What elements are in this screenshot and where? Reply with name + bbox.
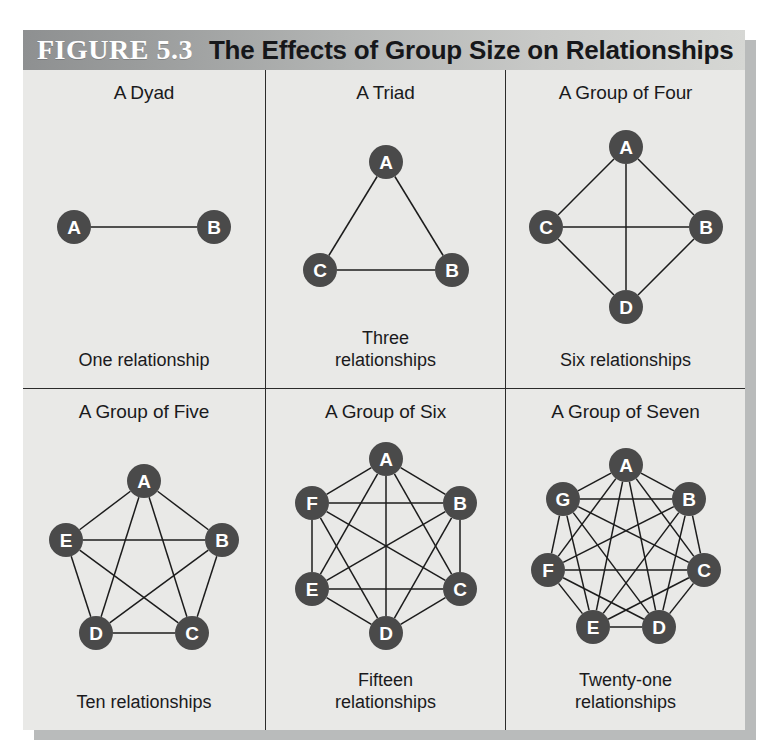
group-member-node: E (576, 610, 610, 644)
panel-title: A Group of Six (325, 401, 446, 423)
sociogram: ABCDEF (291, 438, 481, 654)
panel-group-of-seven: A Group of Seven ABCDEFG Twenty-one rela… (505, 388, 745, 730)
figure-number-label: FIGURE 5.3 (37, 34, 193, 66)
group-member-node: B (435, 253, 469, 287)
node-label: B (445, 260, 459, 281)
group-member-node: B (197, 210, 231, 244)
group-member-node: C (175, 616, 209, 650)
relationship-line (596, 482, 622, 611)
relationship-line (110, 551, 209, 624)
group-member-node: G (546, 482, 580, 516)
group-member-node: F (531, 553, 565, 587)
figure-root: FIGURE 5.3 The Effects of Group Size on … (0, 0, 772, 756)
relationship-line (669, 584, 693, 614)
group-member-node: D (609, 290, 643, 324)
node-label: B (699, 217, 713, 238)
node-label: B (453, 493, 467, 514)
relationship-line (558, 159, 614, 215)
node-label: A (619, 455, 633, 476)
group-member-node: E (295, 572, 329, 606)
group-member-node: C (687, 553, 721, 587)
graph-group-of-seven: ABCDEFG (506, 423, 745, 670)
node-label: D (619, 297, 633, 318)
node-label: E (586, 617, 599, 638)
edge-group (71, 492, 217, 634)
relationship-line (197, 557, 217, 618)
relationship-line (551, 516, 559, 554)
panel-title: A Group of Four (559, 82, 693, 104)
relationship-line (563, 507, 674, 563)
group-member-node: D (79, 616, 113, 650)
relationship-line (638, 239, 694, 295)
relationship-line (578, 507, 689, 563)
group-member-node: F (295, 486, 329, 520)
group-member-node: E (49, 523, 83, 557)
relationship-line (573, 513, 649, 614)
node-label: E (305, 579, 318, 600)
group-member-node: A (127, 464, 161, 498)
relationship-line (101, 498, 139, 618)
panel-triad: A Triad ABC Three relationships (265, 70, 505, 388)
node-label: C (539, 217, 553, 238)
relationship-line (394, 176, 442, 255)
relationship-line (400, 598, 445, 625)
node-label: G (555, 489, 570, 510)
panel-grid: A Dyad AB One relationship A Triad ABC T… (23, 70, 745, 730)
node-label: E (60, 530, 73, 551)
relationship-line (320, 518, 377, 618)
graph-group-of-six: ABCDEF (266, 423, 505, 670)
panel-title: A Dyad (114, 82, 175, 104)
panel-caption: Ten relationships (33, 692, 256, 714)
panel-group-of-five: A Group of Five ABCDE Ten relationships (23, 388, 265, 730)
graph-dyad: AB (23, 104, 265, 350)
group-member-node: D (369, 616, 403, 650)
group-member-node: A (369, 442, 403, 476)
group-member-node: C (529, 210, 563, 244)
relationship-line (326, 468, 371, 495)
sociogram: ABCDE (45, 460, 243, 654)
relationship-line (629, 482, 655, 611)
relationship-line (71, 557, 91, 618)
node-label: B (207, 217, 221, 238)
relationship-line (577, 474, 610, 492)
relationship-line (558, 584, 582, 614)
group-member-node: B (443, 486, 477, 520)
node-label: C (185, 623, 199, 644)
sociogram: ABC (299, 141, 473, 291)
node-label: B (682, 489, 696, 510)
node-label: A (379, 152, 393, 173)
relationship-line (158, 492, 209, 530)
panel-caption: Twenty-one relationships (516, 670, 736, 714)
graph-triad: ABC (266, 104, 505, 328)
sociogram: AB (53, 206, 235, 248)
group-member-node: D (642, 610, 676, 644)
relationship-line (80, 492, 131, 530)
figure-title: The Effects of Group Size on Relationshi… (209, 35, 734, 66)
group-member-node: A (609, 130, 643, 164)
group-member-node: C (443, 572, 477, 606)
node-label: B (215, 530, 229, 551)
panel-caption: Three relationships (276, 328, 496, 372)
group-member-node: A (609, 448, 643, 482)
relationship-line (326, 598, 371, 625)
node-label: D (379, 623, 393, 644)
sociogram: ABCDEFG (527, 444, 725, 648)
node-label: F (542, 560, 554, 581)
node-label: F (306, 493, 318, 514)
sociogram: ABDC (525, 126, 727, 328)
node-label: A (379, 449, 393, 470)
panel-title: A Group of Seven (551, 401, 699, 423)
panel-title: A Triad (356, 82, 414, 104)
figure-card: FIGURE 5.3 The Effects of Group Size on … (23, 30, 745, 730)
panel-group-of-six: A Group of Six ABCDEF Fifteen relationsh… (265, 388, 505, 730)
relationship-line (638, 159, 694, 215)
node-label: A (619, 137, 633, 158)
group-member-node: C (303, 253, 337, 287)
panel-caption: Six relationships (516, 350, 736, 372)
figure-header-bar: FIGURE 5.3 The Effects of Group Size on … (23, 30, 745, 70)
relationship-line (558, 239, 614, 295)
edge-group (558, 159, 694, 295)
relationship-line (149, 498, 187, 618)
node-label: D (89, 623, 103, 644)
relationship-line (328, 176, 376, 255)
